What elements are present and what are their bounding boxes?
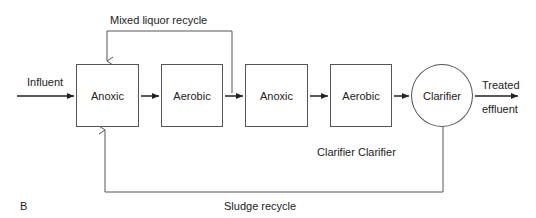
clarifier-caption: Clarifier Clarifier [317, 146, 396, 158]
effluent-label-line1: Treated [482, 79, 520, 91]
sludge-recycle-label: Sludge recycle [224, 200, 296, 212]
clarifier-label: Clarifier [423, 90, 461, 102]
unit-label: Anoxic [260, 90, 293, 102]
effluent-label-line2: effluent [482, 103, 518, 115]
unit-label: Aerobic [342, 90, 379, 102]
panel-label: B [20, 200, 27, 212]
clarifier: Clarifier [411, 64, 473, 127]
unit-label: Aerobic [173, 90, 210, 102]
anoxic-tank-1: Anoxic [76, 64, 139, 127]
influent-label: Influent [27, 76, 63, 88]
anoxic-tank-2: Anoxic [245, 64, 308, 127]
mixed-liquor-recycle-label: Mixed liquor recycle [110, 14, 207, 26]
unit-label: Anoxic [91, 90, 124, 102]
aerobic-tank-1: Aerobic [161, 64, 223, 127]
aerobic-tank-2: Aerobic [330, 64, 392, 127]
process-flow-diagram: Mixed liquor recycle Influent Anoxic Aer… [0, 0, 536, 218]
